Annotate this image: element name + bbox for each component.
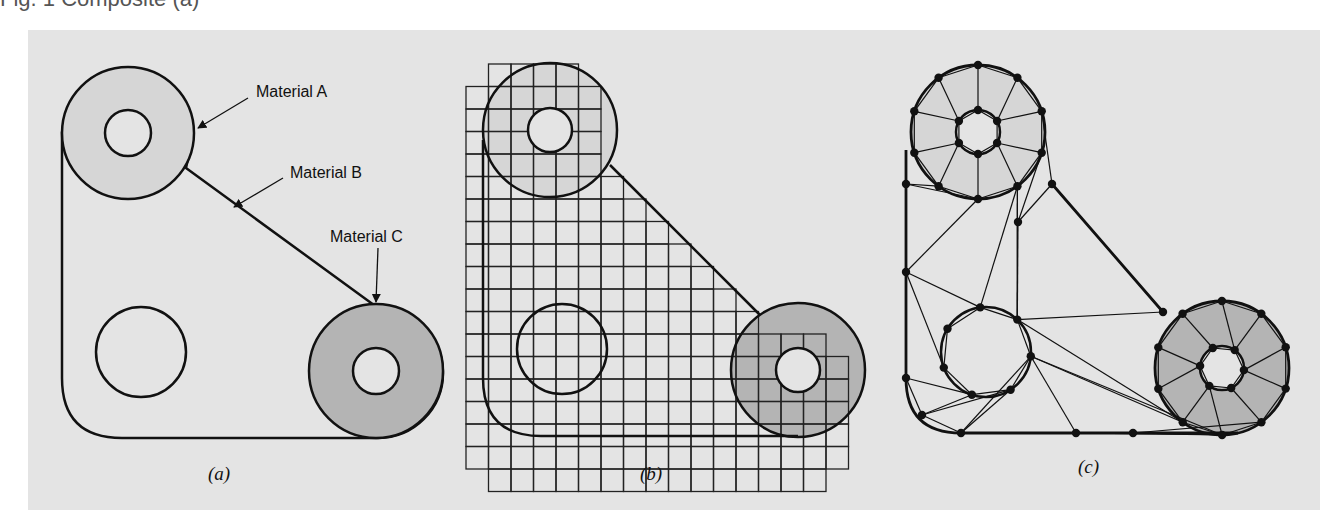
mesh-node <box>1227 384 1235 392</box>
label-material-b: Material B <box>290 164 362 181</box>
mesh-node <box>902 180 910 188</box>
mesh-node <box>955 139 963 147</box>
mesh-node <box>1038 149 1046 157</box>
mesh-node <box>1038 107 1046 115</box>
mesh-node <box>1178 310 1186 318</box>
caption-c: (c) <box>1078 456 1099 478</box>
mesh-node <box>955 117 963 125</box>
arrow-material-b <box>234 178 283 207</box>
material-c-hole <box>353 348 399 394</box>
panel-a: Material A Material B Material C (a) <box>62 67 443 485</box>
empty-hole <box>96 307 186 397</box>
mesh-node <box>1218 431 1226 439</box>
mesh-node <box>957 429 965 437</box>
label-material-a: Material A <box>256 83 327 100</box>
mesh-node <box>910 107 918 115</box>
mesh-node <box>1240 366 1248 374</box>
mesh-node <box>1159 308 1167 316</box>
mesh-node <box>934 182 942 190</box>
mesh-node <box>1231 346 1239 354</box>
mesh-node <box>968 391 976 399</box>
mesh-node <box>976 303 984 311</box>
mesh-node <box>1154 385 1162 393</box>
panel-c: (c) <box>902 61 1290 478</box>
mesh-node <box>934 74 942 82</box>
mesh-node <box>1013 182 1021 190</box>
mesh-node <box>1013 74 1021 82</box>
label-material-c: Material C <box>330 228 403 245</box>
mesh-node <box>1205 382 1213 390</box>
mesh-node <box>910 149 918 157</box>
arrow-material-a <box>198 98 248 128</box>
mesh-node <box>974 195 982 203</box>
mesh-node <box>1129 429 1137 437</box>
mesh-node <box>974 106 982 114</box>
mesh-node <box>993 117 1001 125</box>
mesh-node <box>993 139 1001 147</box>
mesh-node <box>1282 343 1290 351</box>
mesh-node <box>1282 384 1290 392</box>
mesh-node <box>1027 352 1035 360</box>
mesh-node <box>1209 344 1217 352</box>
material-a-hole <box>105 110 151 156</box>
arrow-material-c <box>376 248 378 302</box>
caption-b: (b) <box>640 463 662 485</box>
mesh-node <box>1072 429 1080 437</box>
mesh-node <box>943 325 951 333</box>
mesh-node <box>974 150 982 158</box>
mesh-node <box>1048 180 1056 188</box>
caption-a: (a) <box>208 463 230 485</box>
mesh-node <box>1218 297 1226 305</box>
panel-b: (b) <box>466 63 865 492</box>
mesh-node <box>1196 362 1204 370</box>
mesh-node <box>918 411 926 419</box>
mesh-node <box>902 374 910 382</box>
figure-canvas: Material A Material B Material C (a) (b) <box>0 0 1342 530</box>
mesh-node <box>1257 310 1265 318</box>
mesh-node <box>1013 315 1021 323</box>
mesh-node <box>1154 343 1162 351</box>
mesh-node <box>940 363 948 371</box>
mesh-node <box>1006 386 1014 394</box>
mesh-node <box>902 268 910 276</box>
mesh-node <box>974 61 982 69</box>
mesh-node <box>1257 418 1265 426</box>
mesh-node <box>1014 218 1022 226</box>
mesh-node <box>1179 418 1187 426</box>
